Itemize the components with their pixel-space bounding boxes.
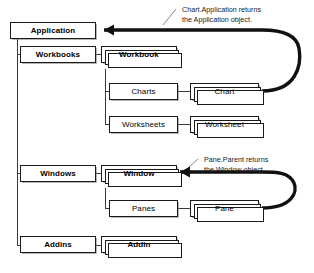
node-window[interactable]: Window xyxy=(101,165,177,182)
arrowhead-application xyxy=(104,25,114,36)
node-pane[interactable]: Pane xyxy=(190,200,259,217)
annotation-chart-application: Chart.Application returns the Applicatio… xyxy=(182,5,261,24)
node-addins[interactable]: Addins xyxy=(20,236,96,253)
object-model-diagram: Application Workbooks Workbook Charts Ch… xyxy=(0,0,314,273)
node-addin[interactable]: Addin xyxy=(101,236,177,253)
node-windows[interactable]: Windows xyxy=(20,165,96,182)
node-workbooks[interactable]: Workbooks xyxy=(20,46,96,63)
leader-chart-application xyxy=(163,9,176,25)
node-worksheets[interactable]: Worksheets xyxy=(109,116,178,133)
connector-layer xyxy=(0,0,314,273)
node-workbook[interactable]: Workbook xyxy=(101,46,177,63)
node-worksheet[interactable]: Worksheet xyxy=(190,116,259,133)
node-chart[interactable]: Chart xyxy=(190,83,259,100)
node-application[interactable]: Application xyxy=(10,22,96,39)
node-charts[interactable]: Charts xyxy=(109,83,178,100)
node-panes[interactable]: Panes xyxy=(109,200,178,217)
annotation-pane-parent: Pane.Parent returns the Window object. xyxy=(204,155,268,174)
